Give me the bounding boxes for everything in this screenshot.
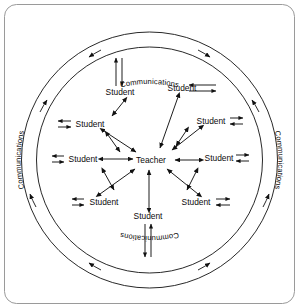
node-student-right-upper: Student [197, 116, 227, 126]
node-student-left-upper: Student [76, 119, 106, 129]
node-student-top-left: Student [106, 87, 136, 97]
diagram-canvas: Communications Communications Communicat… [0, 0, 299, 308]
diagram-frame [5, 5, 295, 304]
communications-diagram: Communications Communications Communicat… [0, 0, 299, 308]
node-student-left-lower: Student [69, 154, 99, 164]
node-student-bottom-right: Student [182, 197, 212, 207]
node-student-right-lower: Student [205, 153, 235, 163]
node-student-bottom-left: Student [90, 197, 120, 207]
node-teacher: Teacher [136, 155, 166, 165]
node-student-top-right: Student [168, 83, 198, 93]
node-student-bottom: Student [134, 211, 164, 221]
